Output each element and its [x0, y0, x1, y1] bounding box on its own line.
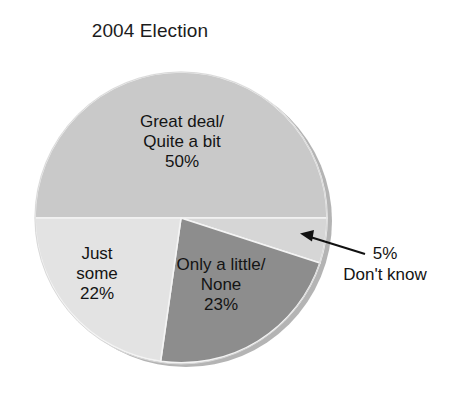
pie-slice-great-deal-quite-a-bit[interactable]: [35, 72, 327, 218]
pie-label-percent: 5%: [320, 243, 450, 264]
pie-chart-figure: 2004 Election Great deal/ Quite a bit 50…: [0, 0, 453, 401]
pie-graphic: [0, 0, 453, 401]
pie-label-line-2: Don't know: [320, 264, 450, 285]
pie-label-dont-know: 5% Don't know: [320, 243, 450, 285]
pie-slice-just-some[interactable]: [35, 218, 181, 361]
